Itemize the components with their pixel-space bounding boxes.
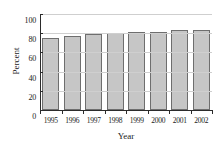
x-axis-title: Year	[40, 130, 212, 142]
x-tick-mark	[105, 110, 106, 114]
y-tick-mark	[40, 91, 43, 92]
x-tick-label: 2001	[168, 115, 192, 126]
x-tick-mark	[62, 110, 63, 114]
x-tick-label: 1997	[82, 115, 106, 126]
x-tick-mark	[40, 110, 41, 114]
x-tick-mark	[148, 110, 149, 114]
bar	[171, 30, 188, 110]
bar-chart: 020406080100 199519961997199819992000200…	[0, 0, 219, 147]
y-tick-mark	[40, 33, 43, 34]
gridline	[40, 72, 212, 73]
bar	[42, 38, 59, 110]
bar-series	[40, 14, 212, 110]
plot-area	[40, 14, 212, 110]
y-tick-label-text: 60	[28, 54, 40, 63]
gridline	[40, 33, 212, 34]
x-tick-mark	[191, 110, 192, 114]
y-tick-mark	[40, 72, 43, 73]
x-tick-label: 1998	[103, 115, 127, 126]
gridline	[40, 14, 212, 15]
y-tick-mark	[40, 52, 43, 53]
gridline	[40, 52, 212, 53]
y-tick-label-text: 100	[25, 16, 40, 25]
bar	[64, 36, 81, 110]
gridline	[40, 91, 212, 92]
x-tick-mark	[126, 110, 127, 114]
x-tick-label: 2002	[189, 115, 213, 126]
x-tick-label: 1995	[39, 115, 63, 126]
y-tick-label-text: 40	[28, 74, 40, 83]
x-tick-label: 2000	[146, 115, 170, 126]
x-tick-mark	[83, 110, 84, 114]
x-tick-label: 1996	[60, 115, 84, 126]
bar	[193, 30, 210, 110]
x-tick-label: 1999	[125, 115, 149, 126]
y-tick-label-text: 20	[28, 93, 40, 102]
x-tick-mark	[212, 110, 213, 114]
x-axis-tick-labels: 19951996199719981999200020012002	[40, 115, 216, 126]
y-tick-label-text: 80	[28, 35, 40, 44]
y-tick-mark	[40, 14, 43, 15]
y-axis-title: Percent	[10, 13, 22, 109]
x-tick-mark	[169, 110, 170, 114]
